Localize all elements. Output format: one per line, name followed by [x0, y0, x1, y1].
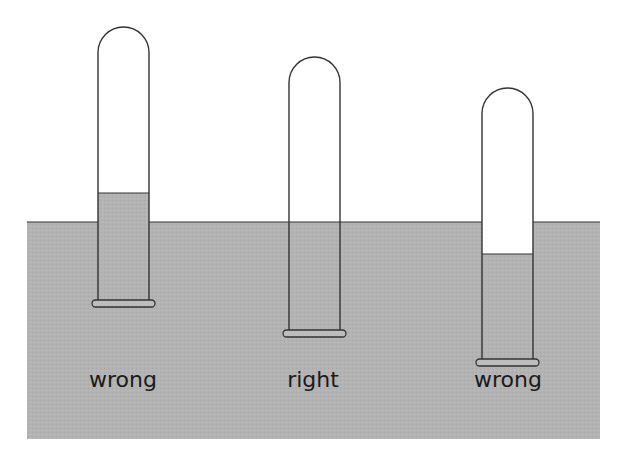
- tube-label-1: wrong: [89, 367, 157, 392]
- tube-liquid: [98, 193, 149, 301]
- tube-air: [482, 88, 533, 254]
- tube-label-3: wrong: [474, 367, 542, 392]
- tube-rim: [92, 300, 155, 307]
- test-tube-2: [283, 57, 346, 337]
- tube-rim: [283, 330, 346, 337]
- test-tube-3: [476, 88, 539, 366]
- tube-liquid: [482, 254, 533, 360]
- tube-rim: [476, 359, 539, 366]
- tube-liquid: [289, 222, 340, 331]
- tube-label-2: right: [287, 367, 339, 392]
- test-tube-1: [92, 27, 155, 307]
- tube-air: [98, 27, 149, 193]
- tube-air: [289, 57, 340, 222]
